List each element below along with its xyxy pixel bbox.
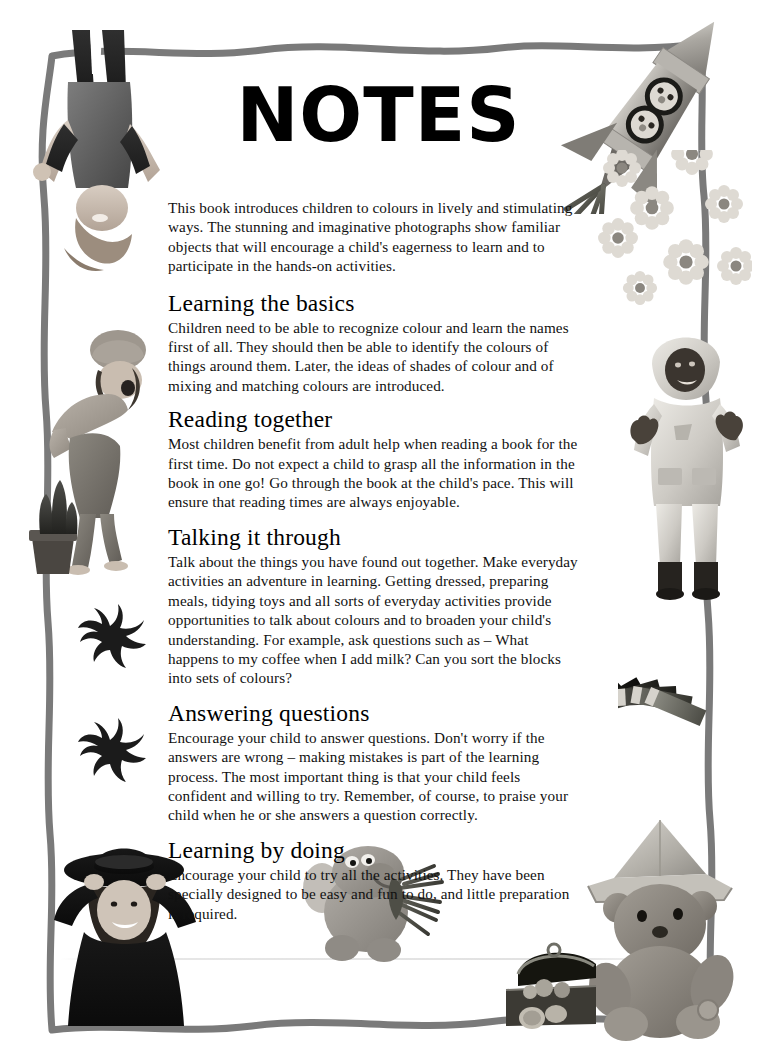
notes-text-column: This book introduces children to colours… [168,198,578,933]
section-heading: Talking it through [168,524,578,551]
section-heading: Learning the basics [168,290,578,317]
section-body: Encourage your child to try all the acti… [168,865,578,923]
section-answering-questions: Answering questions Encourage your child… [168,700,578,825]
child-cactus-photo [22,322,154,578]
flowers-photo [596,150,752,320]
section-learning-the-basics: Learning the basics Children need to be … [168,290,578,396]
page-title: NOTES [0,78,757,152]
section-learning-by-doing: Learning by doing Encourage your child t… [168,837,578,923]
child-rain-suit-photo [630,320,748,610]
section-talking-it-through: Talking it through Talk about the things… [168,524,578,688]
crab-silhouette-upper [62,596,160,678]
section-body: Children need to be able to recognize co… [168,318,578,396]
section-body: Talk about the things you have found out… [168,552,578,688]
intro-paragraph: This book introduces children to colours… [168,198,578,276]
section-heading: Learning by doing [168,837,578,864]
notes-page: NOTES [0,0,757,1062]
section-body: Encourage your child to answer questions… [168,728,578,825]
treasure-chest-photo [500,934,622,1030]
section-heading: Answering questions [168,700,578,727]
section-body: Most children benefit from adult help wh… [168,434,578,512]
crab-silhouette-lower [62,712,158,788]
section-reading-together: Reading together Most children benefit f… [168,406,578,512]
pencil-fan-photo [618,634,740,780]
section-heading: Reading together [168,406,578,433]
